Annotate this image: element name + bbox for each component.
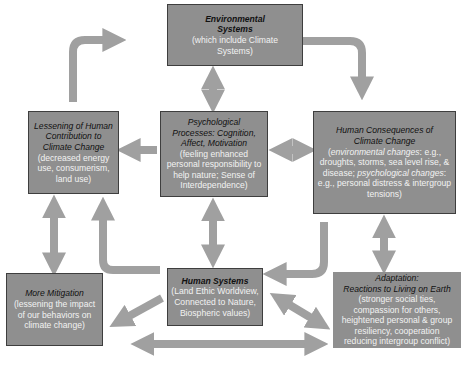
arrow-human-systems-to-mitigation [122,298,162,320]
node-description: (which include Climate Systems) [171,35,299,56]
node-description: (environmental changes: e.g., droughts, … [317,147,452,200]
desc-psy-label: psychological changes [357,168,443,178]
node-title: Lessening of Human Contribution to Clima… [32,121,115,153]
node-adaptation: Adaptation: Reactions to Living on Earth… [333,272,461,348]
node-description: (stronger social ties, compassion for ot… [337,294,457,347]
node-title: Environmental [205,14,265,25]
node-lessening-human-contribution: Lessening of Human Contribution to Clima… [28,111,119,194]
node-title: Human Consequences of Climate Change [317,125,452,146]
node-human-systems: Human Systems (Land Ethic Worldview, Con… [167,268,263,326]
node-psychological-processes: Psychological Processes: Cognition, Affe… [160,111,268,197]
node-title: Reactions to Living on Earth [343,284,451,295]
node-title: Systems [217,24,252,35]
arrow-human-systems-adaptation [278,298,318,322]
node-description: (Land Ethic Worldview, Connected to Natu… [171,286,259,318]
node-environmental-systems: Environmental Systems (which include Cli… [167,4,303,66]
node-description: (lessening the impact of our behaviors o… [10,299,99,331]
node-title: More Mitigation [25,288,84,299]
arrow-human-systems-to-lessening [103,211,160,270]
node-title: Psychological Processes: Cognition, Affe… [164,117,264,149]
node-description: (decreased energy use, consumerism, land… [32,153,115,185]
desc-env-label: environmental changes [331,147,420,157]
node-title: Adaptation: [375,273,418,284]
arrow-consequences-to-human-systems [277,222,324,274]
node-more-mitigation: More Mitigation (lessening the impact of… [6,273,103,346]
arrow-environmental-to-consequences [298,41,362,86]
node-title: Human Systems [182,276,249,287]
node-description: (feeling enhanced personal responsibilit… [164,149,264,191]
climate-systems-diagram: Environmental Systems (which include Cli… [0,0,469,366]
node-human-consequences: Human Consequences of Climate Change (en… [313,111,456,214]
arrow-lessening-to-environmental [73,40,112,102]
